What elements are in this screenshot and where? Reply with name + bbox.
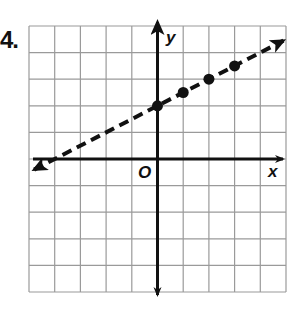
data-point (152, 100, 163, 111)
coordinate-plane: x y O (0, 0, 301, 323)
data-point (203, 74, 214, 85)
y-axis-label: y (165, 28, 177, 47)
origin-label: O (138, 163, 151, 182)
data-point (229, 60, 240, 71)
x-axis-label: x (267, 162, 279, 181)
axes (33, 22, 283, 295)
data-point (178, 87, 189, 98)
